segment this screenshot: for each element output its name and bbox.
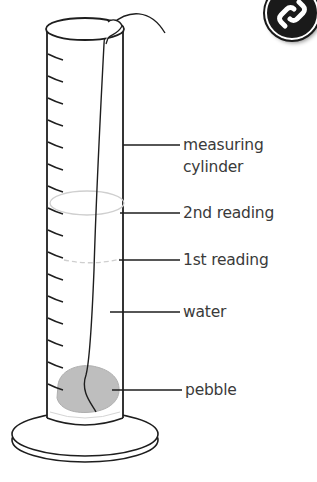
label-second-reading: 2nd reading [183, 204, 274, 222]
pebble-shape [57, 366, 119, 413]
measuring-cylinder-diagram [0, 0, 317, 482]
label-first-reading: 1st reading [183, 251, 269, 269]
chain-link-badge[interactable] [265, 0, 317, 40]
label-pebble: pebble [185, 381, 237, 399]
label-measuring-cylinder-line1: measuring [183, 136, 264, 154]
chain-link-icon [267, 0, 317, 38]
label-measuring-cylinder-line2: cylinder [183, 158, 243, 176]
label-water: water [183, 303, 226, 321]
